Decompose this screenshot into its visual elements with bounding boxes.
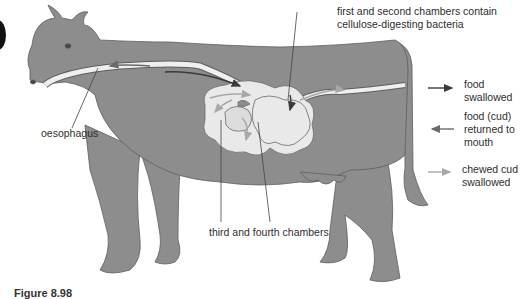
legend-text-line: swallowed [462, 176, 510, 188]
legend-text-line: mouth [464, 136, 493, 148]
legend-text-line: food [464, 78, 484, 90]
label-third-fourth-chambers: third and fourth chambers [209, 226, 329, 238]
stomach-chambers [204, 81, 314, 156]
label-first-second-chambers-line2: cellulose-digesting bacteria [337, 18, 464, 30]
legend-text-line: chewed cud [462, 163, 518, 175]
legend-text-line: food (cud) [464, 110, 511, 122]
label-first-second-chambers-line1: first and second chambers contain [337, 5, 497, 17]
figure-caption: Figure 8.98 [14, 287, 72, 299]
legend-arrows [428, 88, 454, 172]
legend-text-line: swallowed [464, 91, 512, 103]
legend-text-line: returned to [464, 123, 515, 135]
label-oesophagus: oesophagus [41, 127, 98, 139]
